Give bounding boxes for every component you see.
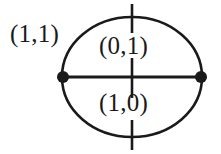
upper-region-label: (0,1): [99, 33, 148, 58]
lower-region-label: (1,0): [99, 90, 148, 115]
right-vertex-dot: [195, 71, 207, 83]
outer-region-label: (1,1): [10, 21, 59, 46]
figure-canvas: (1,1) (0,1) (1,0): [0, 0, 221, 154]
left-vertex-dot: [57, 71, 69, 83]
